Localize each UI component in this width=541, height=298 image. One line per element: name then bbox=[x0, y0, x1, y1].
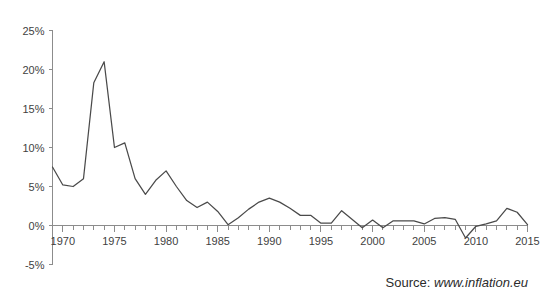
x-axis-tick-label: 2000 bbox=[360, 235, 384, 247]
source-attribution: Source: www.inflation.eu bbox=[386, 275, 528, 290]
source-prefix-label: Source: bbox=[386, 275, 431, 290]
y-axis-tick-label: 10% bbox=[22, 142, 44, 154]
y-axis-tick-label: 5% bbox=[29, 181, 45, 193]
y-axis-tick-label: 15% bbox=[22, 103, 44, 115]
x-axis-tick-label: 1980 bbox=[154, 235, 178, 247]
y-axis-tick-label: 20% bbox=[22, 64, 44, 76]
x-axis-tick-label: 1985 bbox=[205, 235, 229, 247]
y-axis-tick-label: -5% bbox=[25, 259, 45, 271]
source-url-label: www.inflation.eu bbox=[434, 275, 528, 290]
x-axis-tick-label: 2005 bbox=[412, 235, 436, 247]
x-axis-tick-label: 1970 bbox=[51, 235, 75, 247]
y-axis-tick-label: 25% bbox=[22, 25, 44, 37]
line-chart-plot: -5%0%5%10%15%20%25%197019751980198519901… bbox=[0, 0, 541, 298]
x-axis-tick-label: 1995 bbox=[309, 235, 333, 247]
y-axis-tick-label: 0% bbox=[29, 220, 45, 232]
data-series-line bbox=[53, 62, 528, 238]
chart-figure: -5%0%5%10%15%20%25%197019751980198519901… bbox=[0, 0, 541, 298]
x-axis-tick-label: 2015 bbox=[515, 235, 539, 247]
x-axis-tick-label: 1975 bbox=[102, 235, 126, 247]
x-axis-tick-label: 1990 bbox=[257, 235, 281, 247]
